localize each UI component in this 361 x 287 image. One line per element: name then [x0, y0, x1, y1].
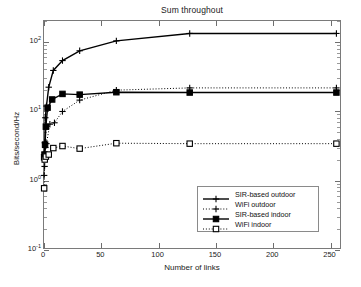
data-point-filled-square	[114, 90, 119, 95]
series-line	[44, 143, 336, 188]
series-wifi-outdoor	[41, 85, 340, 179]
legend-label: WiFi indoor	[235, 220, 271, 230]
y-axis-tick-labels: 10-1100101102	[0, 20, 41, 249]
data-point-filled-square	[42, 142, 47, 147]
data-point-plus	[113, 38, 119, 44]
data-point-open-square	[46, 152, 51, 157]
x-tick-label: 150	[209, 251, 222, 259]
data-point-filled-square	[187, 90, 192, 95]
legend-marker-filled-square-icon	[201, 210, 231, 220]
data-point-filled-square	[43, 124, 48, 129]
data-point-open-square	[187, 141, 192, 146]
data-point-open-square	[77, 146, 82, 151]
figure-canvas: Sum throughout Bits/second/Hz 10-1100101…	[0, 0, 361, 287]
data-point-open-square	[51, 145, 56, 150]
data-point-filled-square	[49, 97, 54, 102]
y-tick-label: 10-1	[28, 245, 41, 253]
data-point-plus	[59, 108, 65, 114]
x-tick-label: 100	[151, 251, 164, 259]
data-point-filled-square	[60, 91, 65, 96]
legend-marker-plus-icon	[201, 190, 231, 200]
data-point-filled-square	[77, 92, 82, 97]
y-tick-label: 102	[30, 37, 41, 45]
data-point-open-square	[334, 141, 339, 146]
data-point-plus	[76, 48, 82, 54]
chart-title: Sum throughout	[43, 5, 341, 15]
y-tick-label: 101	[30, 106, 41, 114]
legend-item[interactable]: WiFi indoor	[201, 220, 314, 230]
x-tick-label: 250	[323, 251, 336, 259]
data-point-open-square	[41, 186, 46, 191]
y-tick-label: 100	[30, 176, 41, 184]
series-line	[44, 88, 336, 176]
x-axis-tick-labels: 050100150200250	[43, 251, 341, 263]
legend-label: WiFi outdoor	[235, 200, 276, 210]
legend-marker-open-square-icon	[201, 220, 231, 230]
legend-label: SIR-based indoor	[235, 210, 291, 220]
data-point-open-square	[213, 226, 218, 231]
data-point-plus	[333, 30, 339, 36]
legend-marker-plus-icon	[201, 200, 231, 210]
data-point-open-square	[60, 143, 65, 148]
x-tick-label: 0	[41, 251, 45, 259]
legend-item[interactable]: SIR-based outdoor	[201, 190, 314, 200]
x-axis-title: Number of links	[43, 263, 341, 272]
x-tick-label: 50	[96, 251, 104, 259]
data-point-plus	[46, 84, 52, 90]
data-point-plus	[76, 97, 82, 103]
data-point-open-square	[114, 141, 119, 146]
legend-item[interactable]: WiFi outdoor	[201, 200, 314, 210]
chart-legend[interactable]: SIR-based outdoorWiFi outdoorSIR-based i…	[197, 186, 319, 232]
legend-item[interactable]: SIR-based indoor	[201, 210, 314, 220]
data-point-filled-square	[45, 105, 50, 110]
legend-label: SIR-based outdoor	[235, 190, 295, 200]
series-sir-indoor	[41, 90, 339, 160]
data-point-filled-square	[334, 90, 339, 95]
data-point-plus	[51, 120, 57, 126]
series-wifi-indoor	[41, 141, 339, 191]
x-tick-label: 200	[266, 251, 279, 259]
data-point-plus	[187, 30, 193, 36]
